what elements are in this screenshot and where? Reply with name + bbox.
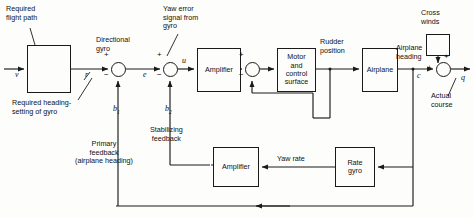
summing-junction-yaw-error[interactable] <box>163 62 178 77</box>
sign-stabilizing-plus: + <box>239 50 244 59</box>
sign-yaw-error-minus: − <box>157 70 162 79</box>
sign-stabilizing-minus: − <box>239 70 244 79</box>
sign-cross-winds-plus-top: + <box>444 52 449 61</box>
block-amplifier-forward[interactable]: Amplifier <box>197 48 241 92</box>
annotation-yaw-rate: Yaw rate <box>277 155 305 164</box>
block-airplane-label: Airplane <box>367 66 393 74</box>
block-diagram: Amplifier Motor and control surface Airp… <box>0 0 473 218</box>
block-amplifier-forward-label: Amplifier <box>205 66 233 74</box>
annotation-primary-feedback: Primary feedback (airplane heading) <box>75 140 133 166</box>
signal-label-c: c <box>417 71 421 80</box>
block-airplane[interactable]: Airplane <box>362 48 398 92</box>
annotation-airplane-heading: Airplane heading <box>396 44 422 61</box>
annotation-actual-course: Actual course <box>431 92 453 109</box>
block-motor-control-surface-label: Motor and control surface <box>285 53 309 87</box>
annotation-rudder-position: Rudder position <box>320 38 345 55</box>
block-rate-gyro[interactable]: Rate gyro <box>335 147 375 187</box>
node-dot-rudder <box>329 68 332 71</box>
annotation-cross-winds: Cross winds <box>421 9 440 26</box>
annotation-required-flight-path: Required flight path <box>6 5 37 22</box>
sign-yaw-error-plus: + <box>157 50 162 59</box>
leader-yaw-error <box>167 34 178 56</box>
block-gyro-setting[interactable] <box>27 45 71 93</box>
sign-cross-winds-plus-left: + <box>427 63 432 72</box>
annotation-directional-gyro: Directional gyro <box>96 36 130 53</box>
annotation-yaw-error-signal: Yaw error signal from gyro <box>163 5 198 31</box>
summing-junction-heading[interactable] <box>111 62 126 77</box>
block-rate-gyro-label: Rate gyro <box>347 159 362 176</box>
block-motor-control-surface[interactable]: Motor and control surface <box>277 48 316 92</box>
node-dot-c <box>412 68 415 71</box>
summing-junction-stabilizing[interactable] <box>245 62 260 77</box>
signal-label-v: v <box>15 70 19 79</box>
signal-label-b2: b2 <box>165 104 172 115</box>
signal-label-b1-sub: 1 <box>117 109 120 115</box>
block-amplifier-feedback-label: Amplifier <box>222 163 250 171</box>
signal-label-u: u <box>182 56 186 65</box>
signal-label-b1: b1 <box>113 104 120 115</box>
leader-required-heading <box>78 78 92 100</box>
signal-label-q: q <box>461 73 465 82</box>
signal-label-r: r <box>85 70 88 79</box>
annotation-stabilizing-feedback: Stabilizing feedback <box>150 126 183 143</box>
annotation-required-heading-setting: Required heading- setting of gyro <box>12 99 71 116</box>
signal-label-b2-sub: 2 <box>169 109 172 115</box>
signal-label-e: e <box>143 70 147 79</box>
block-amplifier-feedback[interactable]: Amplifier <box>213 147 259 187</box>
sign-heading-minus: − <box>104 70 109 79</box>
summing-junction-cross-winds[interactable] <box>436 62 451 77</box>
